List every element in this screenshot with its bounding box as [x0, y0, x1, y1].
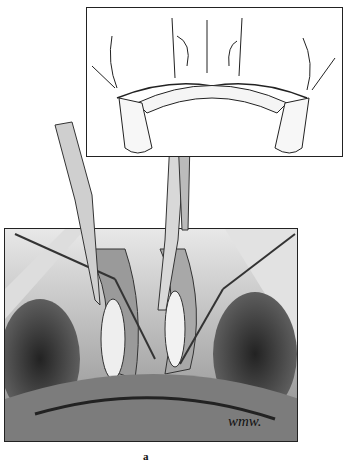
anatomy-inset-diagram — [86, 7, 343, 157]
panel-label: a — [143, 450, 149, 462]
bone-cross-section — [87, 8, 341, 155]
artist-signature: wmw. — [228, 413, 261, 430]
